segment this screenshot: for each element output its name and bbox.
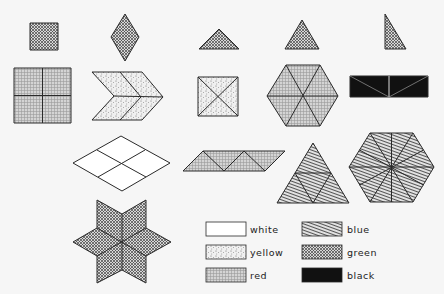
chevron-of-4-rhombi — [92, 72, 163, 120]
square-of-4-squares — [14, 68, 71, 123]
equilateral-triangle — [285, 20, 319, 49]
black-swatch — [302, 268, 342, 282]
legend-item-white: white — [206, 222, 279, 236]
svg-text:black: black — [347, 270, 375, 281]
yellow-swatch — [206, 245, 246, 259]
pattern-block-diagram: white yellow red blue green black — [0, 0, 444, 294]
large-triangle-of-4-triangles — [277, 143, 349, 203]
parallelogram-of-4-triangles — [183, 151, 285, 171]
color-legend: white yellow red blue green black — [206, 222, 377, 282]
legend-item-black: black — [302, 268, 375, 282]
legend-item-red: red — [206, 268, 267, 282]
hexagon-of-6-triangles — [267, 65, 338, 126]
legend-item-yellow: yellow — [206, 245, 283, 259]
white-swatch — [206, 222, 246, 236]
svg-text:white: white — [250, 224, 279, 235]
svg-text:red: red — [250, 270, 267, 281]
isosceles-triangle-wide — [199, 29, 239, 49]
legend-item-green: green — [302, 245, 377, 259]
green-swatch — [302, 245, 342, 259]
red-swatch — [206, 268, 246, 282]
svg-text:yellow: yellow — [250, 247, 283, 258]
small-square — [30, 23, 58, 50]
square-of-4-triangles — [198, 77, 238, 116]
blue-swatch — [302, 222, 342, 236]
svg-text:blue: blue — [347, 224, 370, 235]
right-triangle — [385, 14, 406, 49]
hexagon-of-12-triangles — [349, 133, 434, 202]
rectangle-of-4-triangles — [350, 76, 428, 97]
legend-item-blue: blue — [302, 222, 370, 236]
small-rhombus — [111, 14, 139, 61]
rhombus-of-4-rhombi — [73, 136, 170, 191]
six-point-star-of-6-rhombi — [73, 200, 171, 283]
svg-text:green: green — [347, 247, 377, 258]
